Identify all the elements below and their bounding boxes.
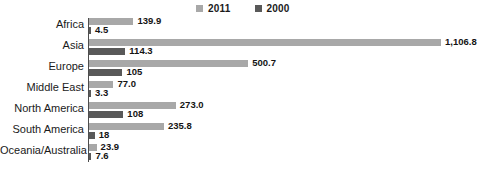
category-label: Europe [0,61,84,72]
bar-row: 108 [89,111,483,118]
bar-row: 139.9 [89,18,483,25]
bar-row: 273.0 [89,102,483,109]
legend-label-2011: 2011 [208,4,231,14]
bar-row: 105 [89,69,483,76]
bar-value-label: 18 [99,130,110,140]
legend-label-2000: 2000 [267,4,290,14]
bar-2000-south-america [89,132,95,139]
bar-value-label: 105 [126,67,142,77]
bar-value-label: 114.3 [129,46,152,56]
bar-value-label: 77.0 [117,79,136,89]
bar-value-label: 139.9 [137,16,161,26]
bar-row: 77.0 [89,81,483,88]
bar-row: 114.3 [89,48,483,55]
bar-row: 235.8 [89,123,483,130]
bar-2000-asia [89,48,125,55]
plot-area: Africa139.94.5Asia1,106.8114.3Europe500.… [0,16,483,164]
category-label: Middle East [0,82,84,93]
bar-value-label: 500.7 [252,58,276,68]
bar-row: 3.3 [89,90,483,97]
category-label: South America [0,124,84,135]
category-label: Africa [0,19,84,30]
bar-row: 18 [89,132,483,139]
bar-2000-africa [89,27,91,34]
category-label: North America [0,103,84,114]
bar-value-label: 4.5 [95,25,108,35]
bar-2000-oceania-australia [89,153,91,160]
category-label: Oceania/Australia [0,145,84,156]
legend-item-2000: 2000 [255,4,290,14]
bar-row: 500.7 [89,60,483,67]
bar-2000-middle-east [89,90,91,97]
bar-row: 23.9 [89,144,483,151]
legend-swatch-2011 [196,5,203,12]
bar-value-label: 273.0 [180,100,204,110]
legend-item-2011: 2011 [196,4,231,14]
bar-chart: 2011 2000 Africa139.94.5Asia1,106.8114.3… [0,0,483,174]
bar-value-label: 1,106.8 [445,37,477,47]
bar-2000-north-america [89,111,123,118]
bar-2000-europe [89,69,122,76]
bar-value-label: 3.3 [95,88,108,98]
category-label: Asia [0,40,84,51]
bar-value-label: 7.6 [95,151,108,161]
chart-legend: 2011 2000 [196,2,290,15]
legend-swatch-2000 [255,5,262,12]
bar-row: 7.6 [89,153,483,160]
bar-value-label: 235.8 [168,121,192,131]
bar-2011-europe [89,60,248,67]
bar-row: 4.5 [89,27,483,34]
bar-value-label: 108 [127,109,143,119]
